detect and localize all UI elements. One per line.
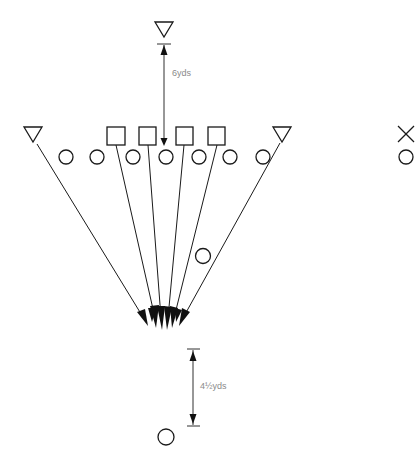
player-circle-2 <box>90 150 104 164</box>
player-circle-4 <box>159 150 173 164</box>
player-circle-deep <box>158 429 174 445</box>
route-left-end <box>37 144 146 322</box>
defender-triangle-top <box>155 22 173 37</box>
label-6yds: 6yds <box>172 68 192 78</box>
route-arrowhead-icon <box>137 309 148 326</box>
route-square-4 <box>174 145 217 318</box>
route-square-3 <box>168 145 184 318</box>
arrowhead-up-icon <box>161 45 168 55</box>
player-circle-6 <box>223 150 237 164</box>
defender-triangle-left <box>24 127 42 142</box>
player-circle-7 <box>256 150 270 164</box>
arrowhead-up-icon <box>190 351 197 361</box>
arrowhead-down-icon <box>190 414 197 424</box>
route-arrowhead-icon <box>157 306 165 330</box>
player-circle-backfield <box>196 249 211 264</box>
player-circle-3 <box>126 150 140 164</box>
lineman-square-4 <box>208 127 225 145</box>
lineman-square-1 <box>107 127 125 145</box>
arrowhead-down-icon <box>161 138 168 146</box>
defender-triangle-right <box>273 127 291 142</box>
player-circle-1 <box>59 150 73 164</box>
play-diagram: 6yds 4½yds <box>0 0 418 467</box>
route-right-end <box>183 143 280 318</box>
lineman-square-2 <box>139 127 156 145</box>
player-circle-side <box>399 150 413 164</box>
lineman-square-3 <box>176 127 193 145</box>
player-circle-5 <box>192 150 206 164</box>
route-square-2 <box>148 145 161 318</box>
label-4-5yds: 4½yds <box>200 381 227 391</box>
route-square-1 <box>116 145 155 318</box>
